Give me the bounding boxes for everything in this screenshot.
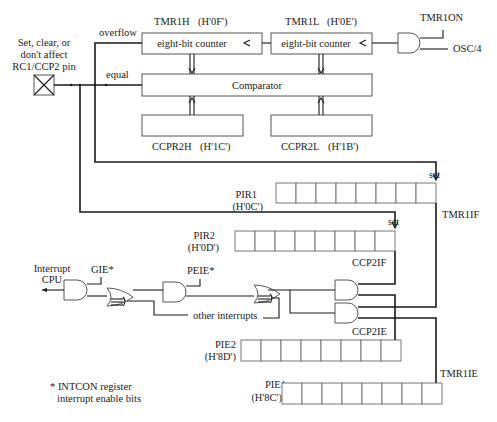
interrupt-cpu-line2: CPU bbox=[42, 274, 63, 285]
pir1-name: PIR1 bbox=[235, 189, 257, 200]
comparator-label: Comparator bbox=[232, 80, 283, 91]
osc4-label: OSC/4 bbox=[453, 43, 482, 54]
bus-ccpr2l-to-comparator bbox=[318, 96, 324, 115]
ccp2-compare-diagram: Set, clear, or don't affect RC1/CCP2 pin… bbox=[0, 0, 497, 422]
gie-label: GIE* bbox=[91, 264, 114, 275]
tmr1h-addr: (H'0F') bbox=[198, 16, 228, 28]
and-gate-gie bbox=[64, 280, 87, 300]
ccpr2l-register bbox=[271, 115, 372, 136]
tmr1l-addr: (H'0E') bbox=[327, 16, 358, 28]
pir2-name: PIR2 bbox=[193, 230, 215, 241]
and-gate-ccp2 bbox=[335, 280, 358, 300]
equal-label: equal bbox=[106, 69, 129, 80]
ccpr2h-addr: (H'1C') bbox=[200, 141, 231, 153]
pie2-addr: (H'8D') bbox=[205, 351, 237, 363]
tmr1ie-bit bbox=[422, 383, 442, 404]
set-label-pir2: set bbox=[388, 216, 399, 227]
other-interrupts-label: other interrupts bbox=[193, 310, 257, 321]
tmr1h-name: TMR1H bbox=[154, 16, 190, 27]
rc1-ccp2-pin bbox=[34, 75, 54, 95]
or-gate-peripheral bbox=[254, 285, 280, 303]
tmr1on-label: TMR1ON bbox=[420, 12, 464, 23]
arrow-left-icon bbox=[41, 288, 47, 292]
tmr1l-name: TMR1L bbox=[285, 16, 319, 27]
pie2-register bbox=[235, 340, 401, 361]
bus-tmr1h-to-comparator bbox=[189, 54, 195, 74]
pin-label-line1: Set, clear, or bbox=[18, 37, 71, 48]
ccp2if-label: CCP2IF bbox=[352, 257, 387, 268]
interrupt-cpu-line1: Interrupt bbox=[34, 263, 71, 274]
peie-label: PEIE* bbox=[187, 265, 214, 276]
pir1-addr: (H'0C') bbox=[232, 201, 263, 213]
pir1-register bbox=[276, 183, 436, 203]
pie1-addr: (H'8C') bbox=[251, 392, 282, 404]
and-gate-peie bbox=[163, 282, 186, 302]
bus-ccpr2h-to-comparator bbox=[189, 96, 195, 115]
tmr1if-label: TMR1IF bbox=[442, 209, 480, 220]
tmr1if-bit bbox=[416, 183, 436, 203]
tmr1ie-label: TMR1IE bbox=[440, 368, 478, 379]
pie1-register bbox=[282, 383, 442, 404]
footnote-line2: interrupt enable bits bbox=[57, 393, 141, 404]
ccp2if-bit bbox=[375, 231, 395, 251]
tmr1h-body: eight-bit counter bbox=[157, 38, 227, 49]
pir2-register bbox=[235, 231, 395, 251]
ccpr2l-addr: (H'1B') bbox=[328, 141, 359, 153]
ccpr2h-name: CCPR2H bbox=[152, 141, 192, 152]
pin-label-line2: don't affect bbox=[21, 49, 68, 60]
set-label-pir1: set bbox=[429, 169, 440, 180]
ccp2ie-bit bbox=[381, 340, 401, 361]
ccp2ie-label: CCP2IE bbox=[352, 326, 387, 337]
ccpr2l-name: CCPR2L bbox=[281, 141, 320, 152]
bus-tmr1l-to-comparator bbox=[318, 54, 324, 74]
overflow-wire bbox=[95, 43, 436, 180]
pin-label-line3: RC1/CCP2 pin bbox=[12, 61, 76, 72]
and-gate-clock bbox=[398, 33, 420, 53]
pir2-addr: (H'0D') bbox=[188, 242, 220, 254]
footnote-line1: * INTCON register bbox=[50, 381, 132, 392]
tmr1l-body: eight-bit counter bbox=[281, 38, 351, 49]
or-gate-main bbox=[107, 288, 133, 306]
ccpr2h-register bbox=[142, 115, 243, 136]
pie2-name: PIE2 bbox=[215, 339, 236, 350]
and-gate-tmr1 bbox=[335, 303, 358, 323]
overflow-label: overflow bbox=[99, 27, 137, 38]
